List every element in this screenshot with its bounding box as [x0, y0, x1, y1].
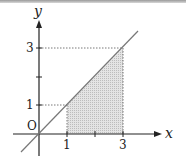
coordinate-diagram: y x O 1 3 1 3 [0, 0, 186, 162]
y-tick-label-3: 3 [26, 41, 34, 55]
x-axis-label: x [165, 125, 173, 141]
origin-label: O [27, 119, 37, 133]
x-tick-label-3: 3 [119, 138, 127, 152]
y-axis-arrow-icon [36, 20, 42, 28]
y-axis-label: y [33, 3, 43, 19]
y-tick-label-1: 1 [26, 98, 34, 112]
shaded-region [67, 48, 123, 134]
x-tick-label-1: 1 [63, 138, 71, 152]
x-axis-arrow-icon [154, 131, 162, 137]
